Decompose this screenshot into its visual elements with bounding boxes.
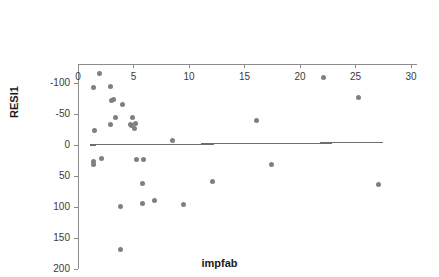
x-tick-label: 20 [288, 72, 312, 82]
scatter-plot-figure: -100-50050100150200 051015202530 RESI1 i… [0, 0, 439, 277]
x-tick-label: 10 [177, 72, 201, 82]
x-tick-label: 5 [122, 72, 146, 82]
x-tick-label: 15 [233, 72, 257, 82]
x-axis-tick-labels: 051015202530 [0, 0, 439, 277]
x-axis-title: impfab [0, 257, 439, 269]
x-tick-label: 0 [66, 72, 90, 82]
x-tick-label: 25 [344, 72, 368, 82]
x-tick-label: 30 [399, 72, 423, 82]
y-axis-title: RESI1 [8, 72, 20, 132]
